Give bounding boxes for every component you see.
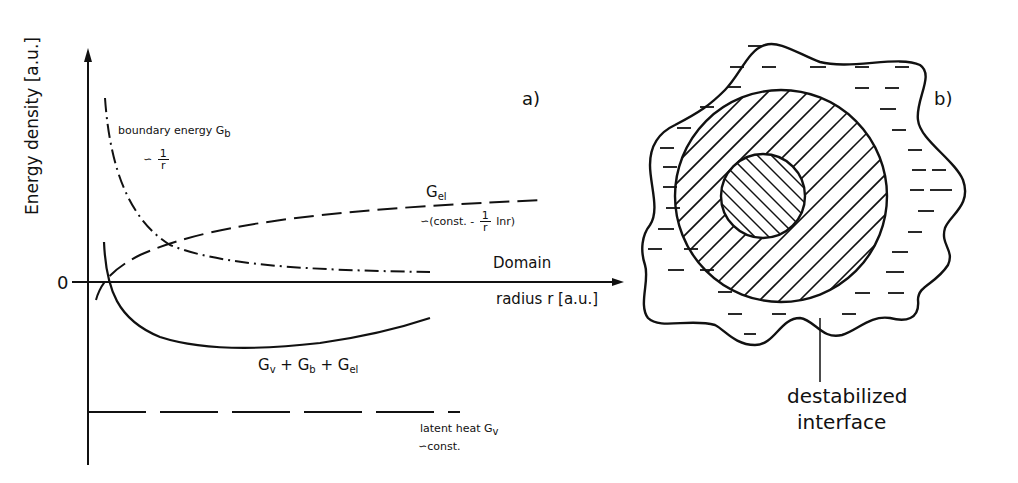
latent-heat-proportionality: ∽const.: [418, 440, 461, 453]
elastic-energy-label: Gel: [426, 183, 447, 201]
total-label-sub: v: [270, 364, 276, 375]
total-energy-label: Gv + Gb + Gel: [258, 356, 358, 374]
x-axis-label: radius r [a.u.]: [496, 290, 598, 308]
total-energy-curve: [104, 242, 430, 348]
boundary-energy-label: boundary energy Gb: [118, 124, 231, 137]
total-label-part: + G: [316, 356, 350, 374]
x-axis-title: Domain: [493, 254, 551, 272]
annotation-interface: interface: [797, 410, 886, 434]
elastic-prop-suffix: lnr): [496, 215, 515, 228]
total-label-part: G: [258, 356, 270, 374]
x-axis-arrow-icon: [612, 278, 624, 286]
proportional-symbol: ∽: [143, 153, 152, 166]
elastic-energy-sub: el: [438, 191, 447, 202]
fraction: 1r: [480, 210, 491, 233]
total-label-sub: b: [309, 364, 315, 375]
elastic-prop-prefix: ∽(const. -: [420, 215, 474, 228]
latent-heat-label: latent heat Gv: [420, 422, 498, 435]
panel-a-label: a): [522, 88, 540, 109]
y-axis-label: Energy density [a.u.]: [22, 37, 42, 215]
fraction-denominator: r: [483, 222, 488, 233]
boundary-energy-text: boundary energy G: [118, 124, 224, 137]
total-label-part: + G: [276, 356, 310, 374]
fraction-denominator: r: [161, 160, 166, 171]
latent-heat-text: latent heat G: [420, 422, 492, 435]
latent-heat-sub: v: [492, 426, 498, 437]
zero-tick-label: 0: [57, 272, 68, 293]
annotation-destabilized: destabilized: [787, 384, 907, 408]
elastic-energy-proportionality: ∽(const. - 1r lnr): [420, 210, 515, 233]
boundary-energy-sub: b: [224, 128, 230, 139]
y-axis-arrow-icon: [84, 48, 92, 62]
panel-b-label: b): [934, 88, 952, 109]
total-label-sub: el: [349, 364, 358, 375]
boundary-energy-proportionality: ∽ 1r: [143, 148, 171, 171]
elastic-energy-text: G: [426, 183, 438, 201]
fraction: 1r: [158, 148, 169, 171]
